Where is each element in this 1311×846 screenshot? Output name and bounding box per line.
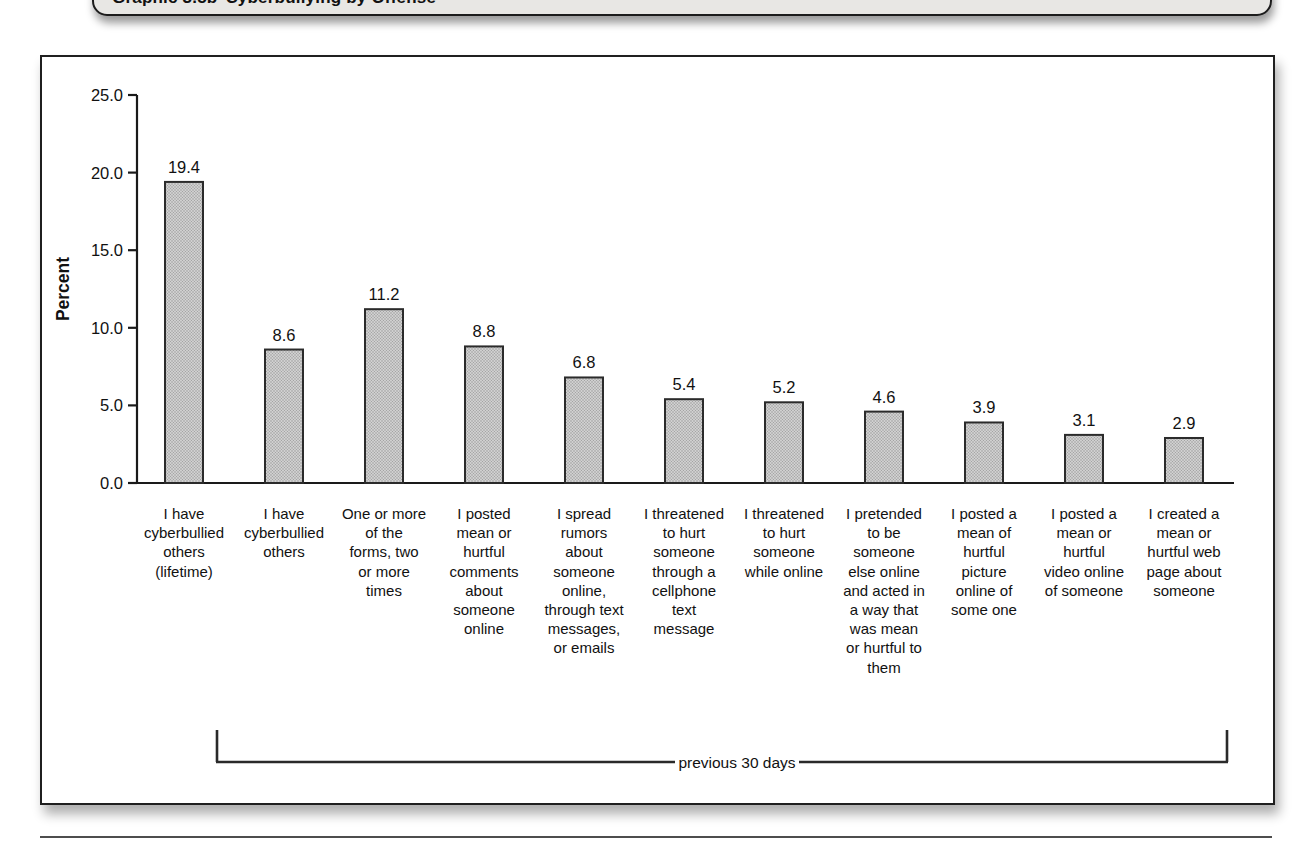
bar-value-label: 19.4 <box>168 158 200 176</box>
y-axis-title: Percent <box>53 257 73 321</box>
bar-value-label: 5.2 <box>773 378 796 396</box>
bar-value-label: 5.4 <box>673 375 696 393</box>
category-label: I pretendedto besomeoneelse onlineand ac… <box>843 505 925 676</box>
y-tick-label: 10.0 <box>91 319 123 337</box>
figure-number-label: Graphic 3.5b <box>112 0 217 7</box>
category-label: One or moreof theforms, twoor moretimes <box>342 505 426 599</box>
y-tick-label: 0.0 <box>100 474 123 492</box>
bar-value-label: 3.9 <box>973 398 996 416</box>
bar <box>365 309 403 483</box>
category-label: I created amean orhurtful webpage abouts… <box>1146 505 1222 599</box>
category-label: I havecyberbulliedothers(lifetime) <box>144 505 224 580</box>
y-tick-label: 20.0 <box>91 164 123 182</box>
y-tick-label: 25.0 <box>91 86 123 104</box>
bar <box>265 350 303 483</box>
book-page: Graphic 3.5bCyberbullying by Offense 0.0… <box>0 0 1311 846</box>
category-label: I threatenedto hurtsomeonewhile online <box>744 505 824 580</box>
y-axis: 0.05.010.015.020.025.0 <box>91 86 137 492</box>
category-label: I havecyberbulliedothers <box>244 505 324 560</box>
y-tick-label: 15.0 <box>91 241 123 259</box>
bar-value-label: 8.6 <box>273 326 296 344</box>
bar-value-label: 11.2 <box>369 285 400 303</box>
bar-value-label: 6.8 <box>573 353 596 371</box>
bar-value-label: 4.6 <box>873 388 896 406</box>
bar-value-label: 8.8 <box>473 322 496 340</box>
bar <box>565 377 603 483</box>
bar <box>1165 438 1203 483</box>
category-label: I spreadrumorsaboutsomeoneonline,through… <box>544 505 624 656</box>
bar-chart: 0.05.010.015.020.025.0Percent19.4I havec… <box>42 57 1273 803</box>
bar <box>165 182 203 483</box>
page-bottom-rule <box>40 836 1272 838</box>
category-label: I posted amean orhurtfulvideo onlineof s… <box>1044 505 1124 599</box>
bar-value-label: 2.9 <box>1173 414 1196 432</box>
figure-title-bar: Graphic 3.5bCyberbullying by Offense <box>92 0 1272 16</box>
bar <box>465 346 503 483</box>
bracket-label: previous 30 days <box>678 754 795 771</box>
y-tick-label: 5.0 <box>100 396 123 414</box>
bar-value-label: 3.1 <box>1073 411 1096 429</box>
bar <box>665 399 703 483</box>
chart-frame: 0.05.010.015.020.025.0Percent19.4I havec… <box>40 55 1275 805</box>
bar <box>865 412 903 483</box>
figure-title: Cyberbullying by Offense <box>225 0 436 7</box>
bar <box>965 422 1003 483</box>
category-label: I threatenedto hurtsomeonethrough acellp… <box>644 505 724 637</box>
figure-caption: Graphic 3.5bCyberbullying by Offense <box>112 0 436 8</box>
bar <box>1065 435 1103 483</box>
category-label: I postedmean orhurtfulcommentsaboutsomeo… <box>449 505 518 637</box>
category-label: I posted amean ofhurtfulpictureonline of… <box>951 505 1018 618</box>
bar <box>765 402 803 483</box>
